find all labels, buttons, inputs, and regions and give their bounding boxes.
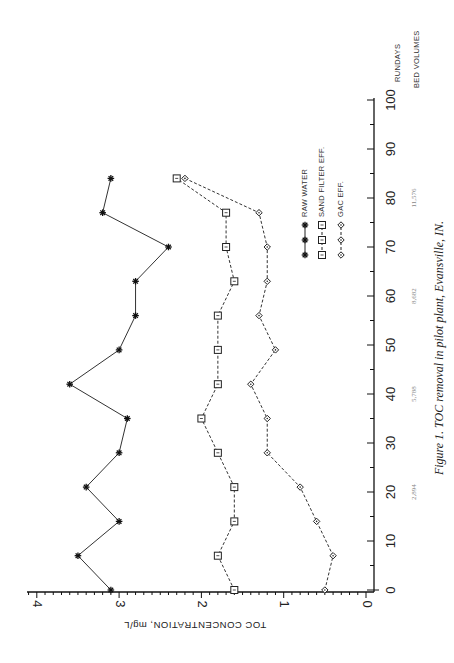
- axes: 01234TOC CONCENTRATION, mg/L010203040506…: [27, 89, 398, 631]
- bed-volume-label: 11,576: [410, 188, 418, 207]
- star-marker: [99, 209, 106, 216]
- toc-tick-label: 1: [277, 600, 292, 607]
- bed-volumes-axis-title: BED VOLUMES: [412, 31, 421, 88]
- toc-axis-title: TOC CONCENTRATION, mg/L: [124, 620, 267, 631]
- days-tick-label: 30: [383, 436, 398, 450]
- star-marker: [124, 415, 131, 422]
- series-line: [185, 178, 333, 590]
- days-tick-label: 80: [383, 191, 398, 205]
- bed-volume-label: 8,682: [410, 288, 418, 304]
- star-marker: [108, 175, 115, 182]
- legend-item: RAW WATER: [300, 168, 309, 258]
- legend-label: SAND FILTER EFF.: [317, 146, 326, 217]
- series-raw-water: [66, 175, 171, 593]
- toc-tick-label: 3: [113, 600, 128, 607]
- toc-tick-label: 2: [195, 600, 210, 607]
- star-marker: [132, 312, 139, 319]
- bed-volume-label: 5,788: [410, 386, 418, 402]
- figure-caption: Figure 1. TOC removal in pilot plant, Ev…: [432, 221, 446, 476]
- toc-tick-label: 0: [360, 600, 375, 607]
- days-tick-label: 60: [383, 289, 398, 303]
- labels: RUNDAYSBED VOLUMES2,8945,7888,68211,576F…: [393, 31, 446, 500]
- star-marker: [302, 237, 309, 244]
- legend-item: GAC EFF.: [336, 181, 345, 258]
- rundays-axis-title: RUNDAYS: [393, 44, 402, 82]
- data-series: [66, 175, 336, 594]
- days-tick-label: 50: [383, 338, 398, 352]
- star-marker: [75, 552, 82, 559]
- star-marker: [108, 587, 115, 594]
- legend-label: GAC EFF.: [336, 181, 345, 217]
- star-marker: [66, 381, 73, 388]
- star-marker: [302, 222, 309, 229]
- days-tick-label: 70: [383, 240, 398, 254]
- days-tick-label: 100: [383, 89, 398, 111]
- legend-label: RAW WATER: [300, 168, 309, 217]
- days-tick-label: 90: [383, 142, 398, 156]
- days-tick-label: 10: [383, 534, 398, 548]
- days-tick-label: 40: [383, 387, 398, 401]
- legend: RAW WATERSAND FILTER EFF.GAC EFF.: [300, 146, 345, 258]
- star-marker: [132, 278, 139, 285]
- bed-volume-label: 2,894: [410, 484, 418, 500]
- series-gac-eff: [182, 175, 337, 593]
- legend-item: SAND FILTER EFF.: [317, 146, 326, 258]
- star-marker: [116, 347, 123, 354]
- star-marker: [302, 252, 309, 259]
- days-tick-label: 0: [383, 586, 398, 593]
- series-sand-filter-eff: [173, 175, 238, 594]
- star-marker: [165, 244, 172, 251]
- toc-removal-figure: 01234TOC CONCENTRATION, mg/L010203040506…: [0, 0, 454, 663]
- series-line: [177, 178, 235, 590]
- series-line: [70, 178, 169, 590]
- toc-tick-label: 4: [30, 600, 45, 607]
- days-tick-label: 20: [383, 485, 398, 499]
